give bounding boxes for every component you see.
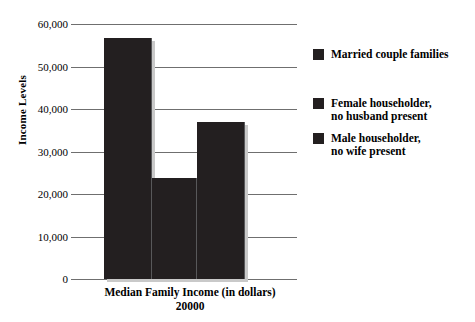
- legend-entry: Female householder, no husband present: [313, 97, 432, 123]
- plot-area: 60,00050,00040,00030,00020,00010,0000: [78, 24, 297, 279]
- legend-swatch: [313, 49, 324, 60]
- legend-swatch: [313, 98, 324, 109]
- legend-swatch: [313, 133, 324, 144]
- legend-entry: Male householder, no wife present: [313, 132, 421, 158]
- y-axis-tick-mark: [71, 152, 78, 153]
- bar-chart-figure: Income Levels 60,00050,00040,00030,00020…: [0, 0, 475, 322]
- y-axis-tick-label: 30,000: [38, 146, 68, 157]
- y-axis-tick-mark: [71, 237, 78, 238]
- legend-label: Male householder, no wife present: [331, 132, 421, 158]
- x-axis-title: Median Family Income (in dollars) 20000: [50, 285, 330, 313]
- legend-label: Married couple families: [331, 48, 449, 61]
- x-axis-title-main: Median Family Income (in dollars): [104, 286, 275, 298]
- y-axis-tick-mark: [71, 109, 78, 110]
- bar: [152, 178, 197, 279]
- y-axis-tick-mark: [71, 194, 78, 195]
- y-axis-tick-label: 60,000: [38, 19, 68, 30]
- bars-group: [78, 24, 297, 279]
- y-axis-tick-label: 40,000: [38, 104, 68, 115]
- y-axis-tick-label: 10,000: [38, 231, 68, 242]
- y-axis-title: Income Levels: [16, 50, 28, 170]
- y-axis-tick-mark: [71, 279, 78, 280]
- y-axis-tick-label: 50,000: [38, 61, 68, 72]
- y-axis-tick-label: 0: [63, 274, 69, 285]
- bar: [104, 38, 152, 279]
- bar: [197, 122, 245, 279]
- y-axis-tick-mark: [71, 67, 78, 68]
- legend-entry: Married couple families: [313, 48, 449, 61]
- legend-label: Female householder, no husband present: [331, 97, 432, 123]
- y-axis-tick-label: 20,000: [38, 189, 68, 200]
- x-axis-title-sub: 20000: [50, 299, 330, 313]
- y-axis-tick-mark: [71, 24, 78, 25]
